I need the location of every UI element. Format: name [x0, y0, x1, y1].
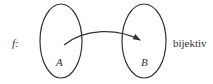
property-label: bijektiv: [173, 37, 207, 49]
function-label: f:: [12, 37, 19, 49]
mapping-arrow: [64, 32, 140, 45]
set-b-label: B: [141, 56, 148, 68]
mapping-diagram: f: A B bijektiv: [0, 0, 213, 84]
set-a-label: A: [55, 56, 63, 68]
